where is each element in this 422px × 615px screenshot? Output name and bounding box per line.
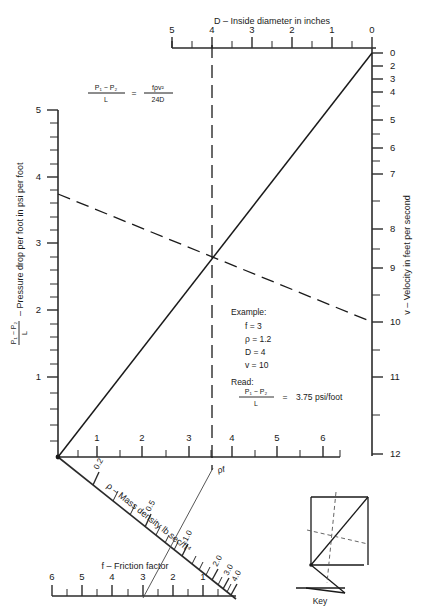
diameter-axis: D – Inside diameter in inches 5 4 3 2 1 … (169, 16, 376, 48)
pressure-to-velocity-line (58, 194, 372, 322)
example-read-equals: = (283, 392, 288, 402)
rho-f-tick-label-1: 1 (94, 432, 99, 443)
velocity-tick-label-6: 6 (390, 142, 395, 153)
diameter-tick-label-5: 5 (169, 24, 174, 35)
pressure-axis-label: P₁ − P₂ L – Pressure drop per foot in ps… (10, 162, 28, 345)
pressure-tick-label-4: 4 (36, 171, 41, 182)
diameter-tick-label-3: 3 (249, 24, 254, 35)
nomograph-figure: D – Inside diameter in inches 5 4 3 2 1 … (0, 0, 422, 615)
rho-f-axis: 1 2 3 4 5 6 (58, 432, 340, 457)
velocity-tick-label-10: 10 (390, 316, 401, 327)
rho-f-tick-label-5: 5 (274, 432, 279, 443)
diameter-tick-label-4: 4 (209, 24, 214, 35)
velocity-tick-label-11: 11 (390, 371, 400, 382)
example-heading: Example: (231, 307, 266, 317)
pressure-label-text: – Pressure drop per foot in psi per foot (15, 162, 25, 316)
friction-tick-label-6: 6 (49, 571, 54, 582)
example-line-D: D = 4 (245, 347, 266, 357)
formula-equals: = (132, 88, 137, 98)
formula-lhs-numerator: P₁ − P₂ (95, 84, 118, 91)
rho-f-intersection-label: ρf (217, 464, 226, 475)
mass-density-axis-line (58, 457, 236, 599)
example-read-heading: Read: (231, 377, 254, 387)
construction-lines: ρf (56, 45, 372, 598)
key-label: Key (313, 596, 328, 606)
example-read-numerator: P₁ − P₂ (245, 388, 268, 395)
velocity-tick-label-5: 5 (390, 114, 395, 125)
formula-rhs-numerator: fρv² (152, 84, 164, 92)
rho-f-tick-label-2: 2 (139, 432, 144, 443)
example-line-v: v = 10 (245, 360, 269, 370)
velocity-tick-label-9: 9 (390, 262, 395, 273)
friction-tick-label-1: 1 (200, 571, 205, 582)
pressure-tick-label-3: 3 (36, 237, 41, 248)
example-line-f: f = 3 (245, 321, 262, 331)
origin-node (56, 455, 61, 460)
mass-density-axis-label: ρ – Mass density lb sec/ft⁴ (105, 481, 194, 554)
velocity-tick-label-3: 3 (390, 73, 395, 84)
diameter-tick-label-1: 1 (329, 24, 334, 35)
pressure-label-numerator: P₁ − P₂ (10, 322, 17, 345)
pressure-tick-label-5: 5 (36, 104, 41, 115)
pressure-drop-axis: 5 4 3 2 1 P₁ − P₂ L – Pressure drop per … (10, 104, 58, 457)
velocity-tick-label-12: 12 (390, 448, 401, 459)
example-read-denominator: L (254, 400, 258, 407)
pressure-tick-label-2: 2 (36, 304, 41, 315)
mass-density-axis: 0.2 0.5 1.0 2.0 3.0 4.0 ρ – Mass density… (58, 456, 243, 599)
key-main-diagonal (311, 497, 368, 565)
friction-factor-axis: 6 5 4 3 2 1 f – Friction factor (49, 561, 236, 596)
diameter-tick-label-0: 0 (369, 24, 374, 35)
rho-f-tick-label-6: 6 (320, 432, 325, 443)
friction-tick-label-3: 3 (140, 571, 145, 582)
velocity-axis-label: v – Velocity in feet per second (402, 195, 412, 315)
formula-block: P₁ − P₂ L = fρv² 24D (88, 84, 173, 103)
velocity-tick-label-0: 0 (390, 47, 395, 58)
diameter-axis-label: D – Inside diameter in inches (214, 16, 331, 26)
friction-tick-label-2: 2 (170, 571, 175, 582)
formula-rhs-denominator: 24D (152, 96, 165, 103)
friction-tick-label-4: 4 (109, 571, 114, 582)
nomograph-svg: D – Inside diameter in inches 5 4 3 2 1 … (0, 0, 422, 615)
diameter-tick-label-2: 2 (289, 24, 294, 35)
key-diagram: Key (296, 492, 368, 606)
pressure-label-denominator: L (21, 331, 28, 335)
mass-density-tick-label-2-0: 2.0 (211, 553, 224, 568)
velocity-tick-label-8: 8 (390, 223, 395, 234)
example-line-rho: ρ = 1.2 (245, 334, 272, 344)
mass-density-tick-label-0-2: 0.2 (92, 456, 105, 471)
example-block: Example: f = 3 ρ = 1.2 D = 4 v = 10 Read… (231, 307, 343, 407)
friction-tick-label-5: 5 (79, 571, 84, 582)
rho-f-tick-label-3: 3 (186, 432, 191, 443)
velocity-tick-label-4: 4 (390, 86, 395, 97)
rho-f-tick-label-4: 4 (229, 432, 234, 443)
velocity-tick-label-7: 7 (390, 168, 395, 179)
formula-lhs-denominator: L (104, 96, 108, 103)
velocity-tick-label-2: 2 (390, 60, 395, 71)
velocity-axis: 0 2 3 4 5 6 7 8 9 10 11 12 v – Velocity … (372, 47, 412, 459)
key-dashed-horizontal (307, 530, 368, 544)
key-origin-node (309, 563, 313, 567)
example-read-value: 3.75 psi/foot (296, 392, 343, 402)
pressure-tick-label-1: 1 (36, 371, 41, 382)
